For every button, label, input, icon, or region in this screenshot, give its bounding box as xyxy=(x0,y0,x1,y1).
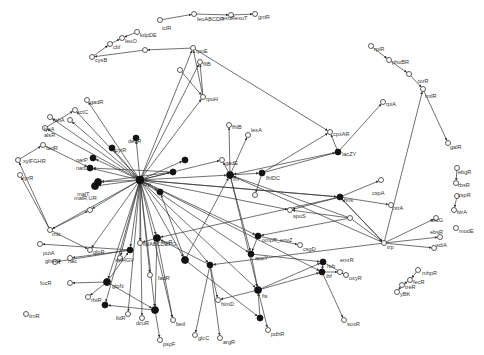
edge-crp-fur xyxy=(140,180,208,262)
node-label: rbsR xyxy=(458,182,470,188)
node-label: dcuR xyxy=(136,320,149,326)
node-label: exuRexuT xyxy=(222,15,248,21)
node-argR2 xyxy=(218,336,223,341)
node-cpxR xyxy=(257,315,263,321)
node-label: tctC xyxy=(78,109,88,115)
edge-lacZYA-fnr xyxy=(234,152,338,174)
node-putA xyxy=(38,242,43,247)
node-oxyR xyxy=(344,273,349,278)
node-label: trp xyxy=(387,244,394,250)
node-label: himD xyxy=(221,301,234,307)
node-label: glpR xyxy=(93,249,105,255)
edge-trp-ascR xyxy=(384,219,433,243)
node-label: mhpR xyxy=(422,270,437,276)
edge-fis-ihf xyxy=(258,273,319,290)
node-fhlB xyxy=(227,123,232,128)
node-label: glnHQ xyxy=(45,258,62,264)
edge-soxS2-ompR xyxy=(261,218,350,235)
edge-crp-rpoH xyxy=(140,99,201,180)
edge-rpoE-gcvA xyxy=(148,48,193,50)
node-label: appY xyxy=(255,255,268,261)
node-label: hns xyxy=(344,197,353,203)
node-arcA xyxy=(182,157,188,163)
node-mtlR xyxy=(421,87,426,92)
edge-soxR-soxS xyxy=(161,195,185,260)
node-label: rbtR xyxy=(91,297,102,303)
node-tnaR xyxy=(24,312,29,317)
edge-crp-deoR xyxy=(136,141,140,180)
edge-gcvA-cysB xyxy=(95,50,145,57)
node-label: narL xyxy=(76,165,87,171)
node-leuO xyxy=(120,36,125,41)
node-label: rob xyxy=(327,263,335,269)
node-mhpR xyxy=(416,268,421,273)
edge-crp-ihf xyxy=(140,180,319,270)
edge-crp-gadE xyxy=(140,161,219,180)
node-gcvA xyxy=(143,48,148,53)
edge-soxR-fnr xyxy=(185,179,228,260)
node-tdcA xyxy=(178,68,183,73)
node-fur xyxy=(207,262,213,268)
node-label: fucR xyxy=(40,280,52,286)
node-label: yBK xyxy=(400,291,411,297)
node-label: putA xyxy=(43,250,55,256)
node-label: fadR xyxy=(158,275,170,281)
node-lacZYA xyxy=(335,149,341,155)
node-label: modE xyxy=(459,228,474,234)
node-xylFGHR xyxy=(16,158,21,163)
node-ompR xyxy=(255,233,261,239)
node-cspD xyxy=(298,243,303,248)
node-label: gadE xyxy=(225,160,238,166)
node-tyrR xyxy=(18,173,23,178)
edge-fnr-fis xyxy=(230,175,257,286)
node-label: fliB xyxy=(203,61,211,67)
edge-fis-rob xyxy=(258,263,320,290)
node-ybBK xyxy=(395,290,400,295)
node-label: cytR xyxy=(115,147,126,153)
node-emrR xyxy=(338,270,343,275)
node-label: ascG xyxy=(430,217,443,223)
node-soxR xyxy=(182,257,189,264)
node-rpiA xyxy=(381,100,386,105)
node-label: xylHGV xyxy=(115,257,134,263)
node-modE xyxy=(454,226,459,231)
node-label: crp xyxy=(143,181,151,187)
edge-hns-crp xyxy=(144,180,340,197)
node-label: argR xyxy=(223,339,235,345)
edge-fnr-lexA xyxy=(230,138,247,175)
node-cysB xyxy=(90,55,95,60)
edge-soxS2-trp xyxy=(350,218,382,241)
node-leuABCD xyxy=(192,12,197,17)
node-fliA xyxy=(198,60,203,65)
node-label: treR xyxy=(405,284,416,290)
node-narP xyxy=(90,155,96,161)
node-fhlA xyxy=(259,170,265,176)
edge-crp-lldR xyxy=(128,180,140,311)
node-label: narP xyxy=(76,157,88,163)
node-label: fnr xyxy=(233,176,240,182)
node-label: leuABCDR xyxy=(197,16,224,22)
edge-ilvY-leuABCD xyxy=(160,15,191,20)
node-label: tyrR xyxy=(23,175,33,181)
node-label: fabA xyxy=(53,117,65,123)
node-ntrC xyxy=(87,165,93,171)
node-lysR xyxy=(135,30,140,35)
edge-lacZYA-rpiA xyxy=(338,104,381,152)
node-marA xyxy=(102,302,108,308)
node-label: sdiA xyxy=(436,242,447,248)
node-label: kdpDE xyxy=(140,32,157,38)
node-gadR xyxy=(85,98,90,103)
node-label: cbl xyxy=(113,44,120,50)
node-cpxAR xyxy=(328,130,333,135)
node-label: lexA xyxy=(251,127,262,133)
edge-lrp-pspF xyxy=(155,310,160,337)
node-label: birA xyxy=(457,209,467,215)
node-soxR2 xyxy=(342,318,347,323)
edge-fnr-appY xyxy=(230,175,250,251)
node-label: ntrA xyxy=(393,205,404,211)
node-label: rpoE xyxy=(196,48,208,54)
node-ebsR xyxy=(438,235,443,240)
edge-fur-glcC xyxy=(196,265,210,332)
node-label: malR,UR xyxy=(74,195,97,201)
node-yiaR xyxy=(369,44,374,49)
